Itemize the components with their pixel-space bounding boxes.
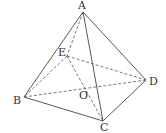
edge-EB (24, 56, 67, 97)
vertex-labels: A B C D E O (13, 0, 158, 133)
edge-BC (24, 97, 103, 121)
edge-CD (103, 80, 146, 121)
label-E: E (58, 46, 66, 59)
label-A: A (77, 0, 87, 12)
edge-AD (83, 12, 146, 80)
edge-AE (67, 12, 83, 56)
label-B: B (13, 94, 21, 107)
edge-ED (67, 56, 146, 80)
dashed-edges (24, 12, 146, 121)
label-O: O (79, 89, 88, 102)
solid-edges (24, 12, 146, 121)
edge-AB (24, 12, 83, 97)
pyramid-diagram: A B C D E O (0, 0, 166, 133)
label-C: C (100, 121, 108, 133)
edge-AC (83, 12, 103, 121)
label-D: D (149, 75, 158, 88)
